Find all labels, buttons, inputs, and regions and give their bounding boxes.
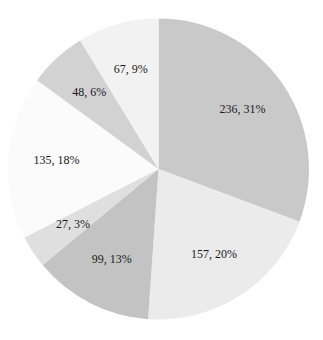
data-label-5: 48, 6% — [72, 85, 106, 99]
data-label-6: 67, 9% — [114, 62, 148, 76]
data-label-0: 236, 31% — [220, 102, 266, 116]
pie-chart: 236, 31%157, 20%99, 13%27, 3%135, 18%48,… — [0, 0, 323, 340]
pie-slices — [8, 19, 309, 320]
data-label-2: 99, 13% — [92, 252, 132, 266]
data-label-3: 27, 3% — [56, 217, 90, 231]
data-label-4: 135, 18% — [33, 153, 79, 167]
data-label-1: 157, 20% — [191, 247, 237, 261]
